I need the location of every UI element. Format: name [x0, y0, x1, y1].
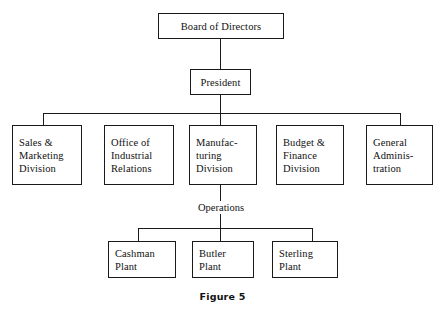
node-label: General Adminis- tration	[367, 136, 432, 175]
connector-division-bus	[43, 113, 401, 114]
node-manufacturing-division[interactable]: Manufac- turing Division	[189, 125, 257, 185]
connector-bus-to-sales	[43, 113, 44, 125]
node-office-of-industrial-relations[interactable]: Office of Industrial Relations	[104, 125, 174, 185]
node-budget-finance-division[interactable]: Budget & Finance Division	[276, 125, 344, 185]
figure-caption: Figure 5	[0, 291, 445, 302]
node-label: Sales & Marketing Division	[13, 136, 81, 175]
node-label: Sterling Plant	[273, 247, 337, 273]
node-label: Budget & Finance Division	[277, 136, 343, 175]
node-butler-plant[interactable]: Butler Plant	[192, 241, 254, 278]
node-board-of-directors[interactable]: Board of Directors	[158, 13, 284, 39]
connector-president-to-bus	[220, 95, 221, 113]
node-cashman-plant[interactable]: Cashman Plant	[108, 241, 176, 278]
node-label: Office of Industrial Relations	[105, 136, 173, 175]
node-label: Butler Plant	[193, 247, 253, 273]
node-label: Board of Directors	[159, 20, 283, 33]
connector-bus-to-cashman	[138, 228, 139, 241]
node-general-administration[interactable]: General Adminis- tration	[366, 125, 433, 185]
connector-plants-bus	[138, 228, 312, 229]
node-label: President	[191, 76, 250, 89]
connector-bus-to-butler	[220, 228, 221, 241]
connector-board-to-president	[220, 39, 221, 69]
connector-bus-to-manufacturing	[220, 113, 221, 125]
connector-bus-to-sterling	[312, 228, 313, 241]
connector-bus-to-general	[400, 113, 401, 125]
node-president[interactable]: President	[190, 69, 251, 95]
node-label: Cashman Plant	[109, 247, 175, 273]
node-label: Manufac- turing Division	[190, 136, 256, 175]
figure-organization-chart: Board of Directors President Sales & Mar…	[0, 0, 445, 312]
label-operations: Operations	[196, 201, 246, 214]
node-sterling-plant[interactable]: Sterling Plant	[272, 241, 338, 278]
node-sales-marketing-division[interactable]: Sales & Marketing Division	[12, 125, 82, 185]
